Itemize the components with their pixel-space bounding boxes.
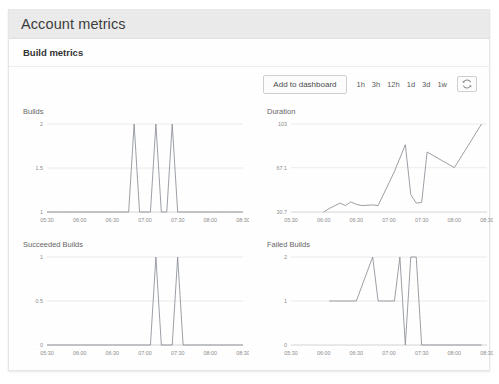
time-range-1h[interactable]: 1h bbox=[357, 80, 365, 89]
chart-duration: Duration 30.767.110305:3006:0006:3007:00… bbox=[253, 101, 497, 234]
svg-text:06:30: 06:30 bbox=[350, 350, 364, 356]
svg-text:07:30: 07:30 bbox=[415, 217, 429, 223]
svg-text:08:30: 08:30 bbox=[480, 350, 493, 356]
chart-failed-builds: Failed Builds 01205:3006:0006:3007:0007:… bbox=[253, 234, 497, 367]
chart-title-failed-builds: Failed Builds bbox=[267, 240, 493, 249]
chart-title-duration: Duration bbox=[267, 107, 493, 116]
time-range-selector: 1h 3h 12h 1d 3d 1w bbox=[357, 80, 447, 89]
svg-text:67.1: 67.1 bbox=[277, 165, 288, 171]
svg-text:05:30: 05:30 bbox=[284, 217, 298, 223]
chart-plot-failed-builds[interactable]: 01205:3006:0006:3007:0007:3008:0008:30 bbox=[267, 251, 493, 359]
svg-text:08:00: 08:00 bbox=[204, 350, 218, 356]
panel-header: Build metrics bbox=[9, 39, 489, 67]
chart-title-succeeded-builds: Succeeded Builds bbox=[23, 240, 249, 249]
svg-text:2: 2 bbox=[40, 121, 43, 127]
svg-text:103: 103 bbox=[278, 121, 287, 127]
svg-text:06:00: 06:00 bbox=[73, 217, 87, 223]
svg-text:08:30: 08:30 bbox=[480, 217, 493, 223]
chart-plot-succeeded-builds[interactable]: 00.5105:3006:0006:3007:0007:3008:0008:30 bbox=[23, 251, 249, 359]
time-range-12h[interactable]: 12h bbox=[387, 80, 400, 89]
svg-text:06:30: 06:30 bbox=[350, 217, 364, 223]
svg-text:06:00: 06:00 bbox=[73, 350, 87, 356]
svg-text:06:30: 06:30 bbox=[106, 350, 120, 356]
svg-text:07:30: 07:30 bbox=[171, 350, 185, 356]
svg-text:1.5: 1.5 bbox=[36, 165, 44, 171]
page-title: Account metrics bbox=[21, 16, 126, 32]
svg-text:1: 1 bbox=[40, 209, 43, 215]
svg-text:2: 2 bbox=[284, 254, 287, 260]
svg-text:05:30: 05:30 bbox=[40, 217, 54, 223]
svg-text:05:30: 05:30 bbox=[40, 350, 54, 356]
svg-text:08:30: 08:30 bbox=[236, 217, 249, 223]
time-range-1d[interactable]: 1d bbox=[407, 80, 415, 89]
card-header: Account metrics bbox=[9, 9, 489, 39]
page-top-strip bbox=[0, 0, 499, 9]
svg-text:05:30: 05:30 bbox=[284, 350, 298, 356]
svg-text:08:30: 08:30 bbox=[236, 350, 249, 356]
svg-text:08:00: 08:00 bbox=[448, 217, 462, 223]
chart-title-builds: Builds bbox=[23, 107, 249, 116]
svg-text:07:00: 07:00 bbox=[382, 350, 396, 356]
svg-text:07:00: 07:00 bbox=[382, 217, 396, 223]
panel-title: Build metrics bbox=[23, 47, 83, 58]
svg-text:1: 1 bbox=[40, 254, 43, 260]
refresh-button[interactable] bbox=[457, 76, 477, 92]
svg-text:07:30: 07:30 bbox=[171, 217, 185, 223]
refresh-icon bbox=[462, 79, 472, 89]
chart-plot-builds[interactable]: 11.5205:3006:0006:3007:0007:3008:0008:30 bbox=[23, 118, 249, 226]
svg-text:07:00: 07:00 bbox=[138, 217, 152, 223]
svg-text:06:30: 06:30 bbox=[106, 217, 120, 223]
svg-text:07:00: 07:00 bbox=[138, 350, 152, 356]
svg-text:06:00: 06:00 bbox=[317, 217, 331, 223]
chart-plot-duration[interactable]: 30.767.110305:3006:0006:3007:0007:3008:0… bbox=[267, 118, 493, 226]
svg-text:0: 0 bbox=[284, 342, 287, 348]
add-to-dashboard-button[interactable]: Add to dashboard bbox=[263, 75, 346, 94]
time-range-1w[interactable]: 1w bbox=[437, 80, 447, 89]
svg-text:1: 1 bbox=[284, 298, 287, 304]
svg-text:08:00: 08:00 bbox=[448, 350, 462, 356]
chart-toolbar: Add to dashboard 1h 3h 12h 1d 3d 1w bbox=[9, 67, 489, 101]
chart-succeeded-builds: Succeeded Builds 00.5105:3006:0006:3007:… bbox=[9, 234, 253, 367]
metrics-card: Account metrics Build metrics Add to das… bbox=[8, 9, 490, 371]
time-range-3h[interactable]: 3h bbox=[372, 80, 380, 89]
svg-text:07:30: 07:30 bbox=[415, 350, 429, 356]
svg-text:0: 0 bbox=[40, 342, 43, 348]
svg-text:08:00: 08:00 bbox=[204, 217, 218, 223]
charts-grid: Builds 11.5205:3006:0006:3007:0007:3008:… bbox=[9, 101, 489, 367]
svg-text:0.5: 0.5 bbox=[36, 298, 44, 304]
svg-text:06:00: 06:00 bbox=[317, 350, 331, 356]
svg-text:30.7: 30.7 bbox=[277, 209, 288, 215]
chart-builds: Builds 11.5205:3006:0006:3007:0007:3008:… bbox=[9, 101, 253, 234]
time-range-3d[interactable]: 3d bbox=[422, 80, 430, 89]
